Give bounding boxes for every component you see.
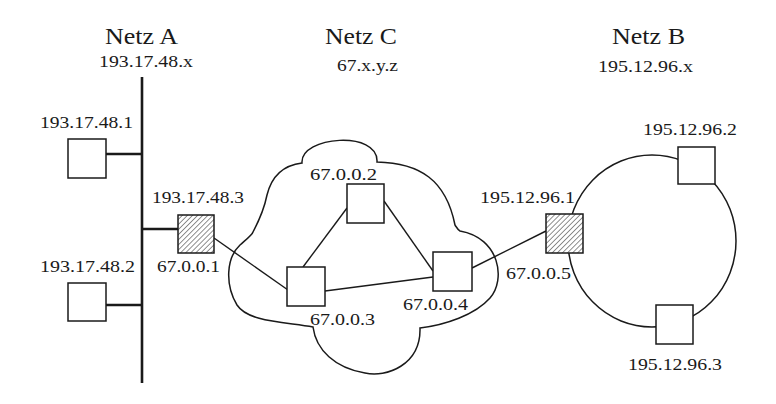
node-c3[interactable] [287, 267, 325, 306]
node-c2[interactable] [347, 184, 384, 223]
link-c2-c4 [384, 201, 433, 271]
node-c4-label: 67.0.0.4 [403, 295, 469, 314]
network-a-address: 193.17.48.x [99, 52, 194, 71]
router-r2[interactable] [546, 214, 583, 253]
network-a-title: Netz A [105, 24, 178, 49]
network-a-header: Netz A 193.17.48.x [99, 24, 194, 71]
node-c3-label: 67.0.0.3 [310, 310, 375, 329]
node-c2-label: 67.0.0.2 [310, 165, 377, 184]
link-c4-r2 [472, 231, 546, 268]
link-r1-c3 [214, 238, 288, 290]
host-b2-label: 195.12.96.2 [643, 120, 737, 139]
network-c-title: Netz C [325, 24, 397, 49]
host-b3-label: 195.12.96.3 [628, 355, 722, 374]
host-b2[interactable] [678, 147, 715, 184]
network-diagram: Netz A 193.17.48.x Netz C 67.x.y.z Netz … [0, 0, 776, 404]
node-c4[interactable] [433, 252, 472, 291]
router-r1-inner-label: 67.0.0.1 [157, 257, 220, 276]
host-b3[interactable] [656, 305, 693, 344]
router-r2-inner-label: 67.0.0.5 [506, 264, 571, 283]
router-r2-outer-label: 195.12.96.1 [480, 188, 575, 207]
network-c-address: 67.x.y.z [337, 56, 399, 75]
host-a1-label: 193.17.48.1 [40, 113, 133, 132]
link-c3-c4 [325, 277, 433, 291]
link-c3-c2 [303, 208, 347, 267]
host-a1[interactable] [68, 139, 106, 178]
network-c-header: Netz C 67.x.y.z [325, 24, 399, 75]
host-a2[interactable] [68, 283, 106, 321]
network-b-title: Netz B [612, 24, 685, 49]
network-b-header: Netz B 195.12.96.x [598, 24, 694, 76]
router-r1[interactable] [178, 215, 214, 253]
host-a2-label: 193.17.48.2 [40, 257, 135, 276]
router-r1-outer-label: 193.17.48.3 [152, 188, 244, 207]
network-b-address: 195.12.96.x [598, 57, 694, 76]
